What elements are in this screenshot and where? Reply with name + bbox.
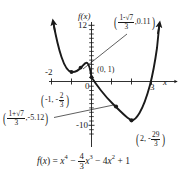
paren-open: (: [41, 93, 44, 108]
equation-coefficient-fraction: 4 3: [78, 152, 84, 169]
point-inflection-lower: [114, 104, 118, 108]
paren-close: ): [151, 15, 154, 30]
equation-lhs-paren-close: ): [47, 156, 50, 166]
point-y-intercept: [90, 75, 94, 79]
curve-arrow-left: [53, 22, 55, 32]
fraction-denominator: 3: [7, 119, 25, 127]
fraction-denominator: 3: [78, 162, 84, 169]
square-root-7: √7: [16, 109, 24, 118]
equation-term2-exponent: 3: [89, 153, 92, 160]
inflection-lower-fraction: 1+√7 3: [7, 110, 25, 126]
equation-minus-1: −: [70, 156, 75, 166]
function-graph-figure: f(x) 12 -10 0 -2 3 x (0, 1) (-1, - 2 3 )…: [0, 0, 190, 169]
annotation-y-intercept: (0, 1): [97, 66, 114, 74]
equation-term3-exponent: 2: [112, 153, 115, 160]
equation-term1-exponent: 4: [65, 153, 68, 160]
paren-close: ): [66, 93, 69, 108]
equation-plus: +: [117, 156, 122, 166]
annotation-inflection-lower: ( 1+√7 3 , -5.12): [2, 110, 49, 126]
local-min-left-x: -1: [45, 96, 52, 104]
square-root-7: √7: [126, 13, 134, 22]
y-tick-label-minus10: -10: [76, 121, 88, 130]
inflection-upper-value: 0.11: [137, 18, 151, 26]
local-min-right-sep: , -: [144, 135, 151, 143]
x-axis-label: x: [163, 78, 167, 87]
function-equation-caption: f(x) = x4 − 4 3 x3 − 4x2 + 1: [37, 152, 130, 169]
fraction-denominator: 3: [59, 101, 65, 109]
x-axis: [49, 79, 176, 85]
local-min-left-fraction: 2 3: [59, 92, 65, 108]
annotation-local-min-right: (2, - 29 3 ): [135, 131, 166, 147]
paren-close: ): [162, 132, 165, 147]
local-min-right-fraction: 29 3: [151, 131, 160, 147]
origin-label: 0: [85, 82, 90, 91]
point-local-min-right: [129, 118, 133, 122]
x-tick-label-3: 3: [150, 83, 155, 92]
annotation-local-min-left: (-1, - 2 3 ): [40, 92, 70, 108]
paren-open: (: [114, 15, 117, 30]
paren-close: ): [45, 111, 48, 126]
fraction-denominator: 3: [151, 140, 160, 148]
paren-open: (: [136, 132, 139, 147]
inflection-lower-value: -5.12: [28, 114, 45, 122]
point-inflection-upper: [79, 66, 83, 70]
y-tick-label-12: 12: [78, 21, 87, 30]
point-local-min-left: [70, 70, 74, 74]
inflection-upper-fraction: 1-√7 3: [118, 14, 134, 30]
local-min-left-sep: , -: [52, 96, 59, 104]
paren-open: (: [3, 111, 6, 126]
x-tick-label-minus2: -2: [45, 68, 53, 77]
equation-term4: 1: [125, 156, 130, 166]
fraction-denominator: 3: [118, 23, 134, 31]
equation-equals: =: [53, 156, 58, 166]
equation-minus-2: −: [95, 156, 100, 166]
annotation-inflection-upper: ( 1-√7 3 , 0.11): [113, 14, 155, 30]
